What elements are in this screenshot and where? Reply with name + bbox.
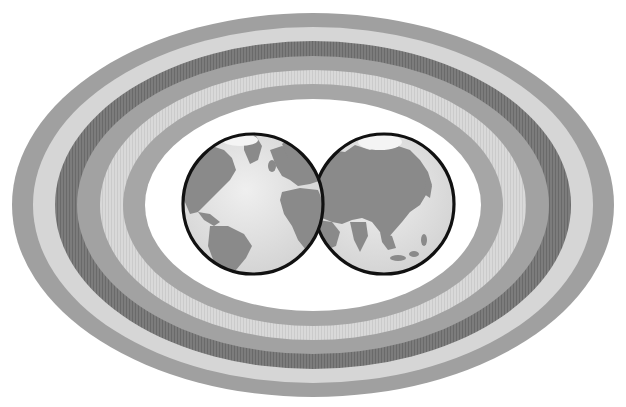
rings-and-globes-svg	[0, 0, 626, 407]
globe-eastern-hemisphere	[314, 134, 454, 276]
logo-graphic	[0, 0, 626, 407]
